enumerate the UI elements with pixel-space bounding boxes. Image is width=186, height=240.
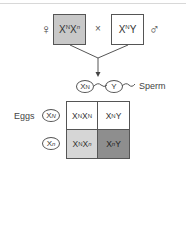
punnett-cell-xNxn: XNXn	[67, 130, 98, 158]
punnett-cell-xNxN: XNXN	[67, 102, 98, 130]
eggs-label: Eggs	[14, 111, 35, 121]
punnett-cell-xNy: XNY	[98, 102, 129, 130]
punnett-square: XNXN XNY XNXn XnY	[66, 101, 130, 159]
sperm-gamete-xn: XN	[76, 80, 94, 93]
punnett-cell-xny: XnY	[98, 130, 129, 158]
sperm-gamete-y: Y	[105, 80, 123, 93]
egg-gamete-xn: Xn	[42, 137, 60, 150]
egg-gamete-xN: XN	[42, 109, 60, 122]
sperm-label: Sperm	[139, 81, 166, 91]
